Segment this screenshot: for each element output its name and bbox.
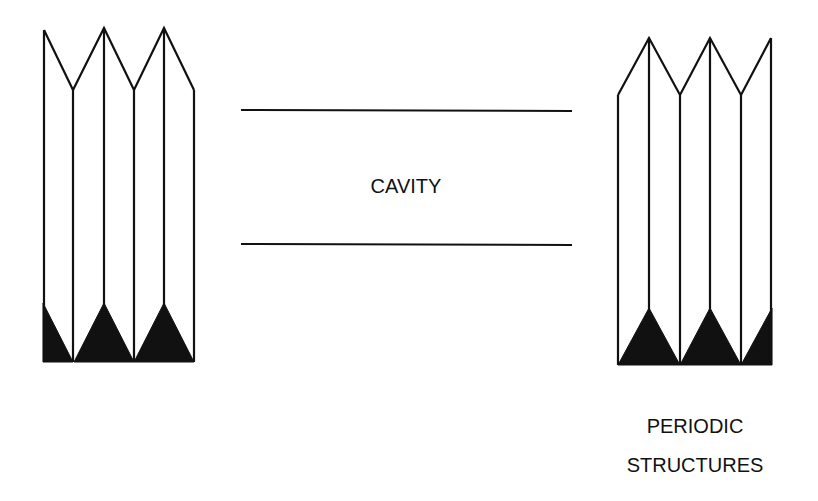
right-top-zigzag (618, 38, 771, 95)
right-bottom-absorber (618, 308, 772, 365)
cavity-bottom-wall (241, 244, 572, 245)
diagram-canvas: CAVITY PERIODIC STRUCTURES (0, 0, 818, 501)
left-top-zigzag (44, 28, 194, 90)
left-triangle-2 (74, 303, 134, 362)
right-triangle-2 (680, 308, 741, 365)
cavity-top-wall (241, 110, 572, 111)
right-triangle-1 (618, 308, 680, 365)
right-periodic-structure (618, 38, 771, 365)
periodic-label-line1: PERIODIC (647, 415, 744, 437)
left-periodic-structure (44, 28, 194, 362)
left-triangle-1 (43, 303, 73, 362)
right-triangle-3 (741, 308, 772, 365)
left-bottom-absorber (43, 303, 194, 362)
cavity-label: CAVITY (371, 175, 442, 197)
left-triangle-3 (134, 303, 194, 362)
periodic-label-line2: STRUCTURES (627, 454, 764, 476)
